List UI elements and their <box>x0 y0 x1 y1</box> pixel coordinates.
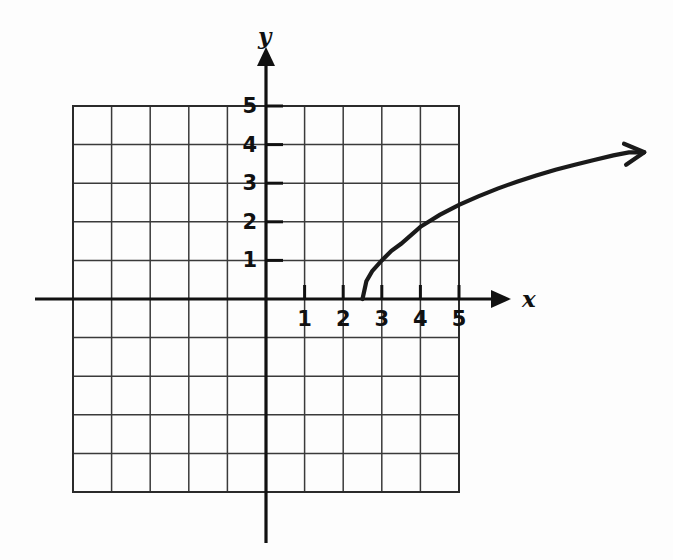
y-axis-arrow-icon <box>257 47 275 66</box>
x-axis-arrow-icon <box>491 290 511 308</box>
figure-root: 12345 12345 x y <box>0 0 673 560</box>
y-tick-label: 3 <box>242 171 257 195</box>
x-tick-label: 1 <box>297 307 312 331</box>
x-tick-label: 3 <box>374 307 389 331</box>
y-tick-labels: 12345 <box>242 94 257 272</box>
square-root-curve <box>363 152 645 299</box>
x-tick-label: 4 <box>413 307 428 331</box>
y-tick-label: 1 <box>242 248 257 272</box>
y-tick-label: 5 <box>242 94 257 118</box>
y-tick-label: 2 <box>242 210 257 234</box>
x-axis-label: x <box>521 285 536 312</box>
x-tick-label: 2 <box>336 307 351 331</box>
tick-marks <box>265 106 459 300</box>
x-tick-labels: 12345 <box>297 307 466 331</box>
x-tick-label: 5 <box>452 307 467 331</box>
y-axis-label: y <box>257 22 273 49</box>
coordinate-graph: 12345 12345 x y <box>0 0 673 560</box>
y-tick-label: 4 <box>242 133 257 157</box>
